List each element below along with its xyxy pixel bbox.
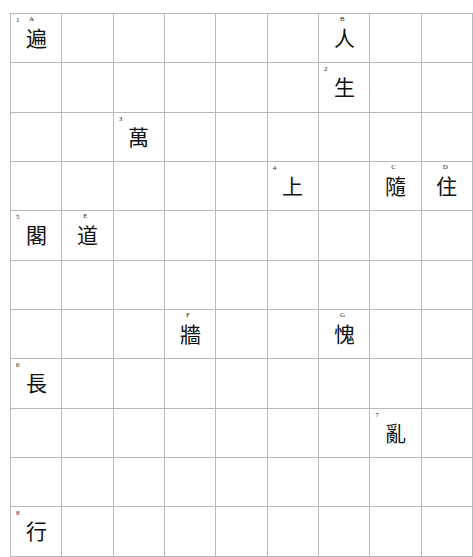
crossword-open-cell[interactable] [318,161,369,210]
crossword-open-cell[interactable] [318,457,369,506]
crossword-open-cell[interactable] [62,457,113,506]
crossword-open-cell[interactable]: 5閣 [11,211,62,260]
crossword-block-cell [11,408,62,457]
crossword-row: 5閣E道 [11,211,473,260]
crossword-open-cell[interactable]: E道 [62,211,113,260]
crossword-open-cell[interactable] [421,309,472,358]
crossword-open-cell[interactable]: B人 [318,14,369,63]
crossword-open-cell[interactable] [318,408,369,457]
crossword-open-cell[interactable]: 4上 [267,161,318,210]
crossword-block-cell [267,260,318,309]
crossword-block-cell [62,112,113,161]
crossword-open-cell[interactable] [318,359,369,408]
crossword-row: 2生 [11,63,473,112]
crossword-open-cell[interactable] [62,309,113,358]
crossword-row: 6長 [11,359,473,408]
crossword-open-cell[interactable] [216,507,267,556]
crossword-open-cell[interactable] [216,14,267,63]
crossword-open-cell[interactable] [216,112,267,161]
crossword-block-cell [62,161,113,210]
crossword-open-cell[interactable] [113,507,164,556]
crossword-open-cell[interactable] [421,457,472,506]
crossword-open-cell[interactable] [113,211,164,260]
crossword-open-cell[interactable] [421,359,472,408]
crossword-body: 1A遍B人2生3萬4上C隨D住5閣E道F牆G愧6長7亂8行 [11,14,473,557]
answer-character: 住 [422,175,472,199]
crossword-block-cell [113,63,164,112]
crossword-block-cell [421,14,472,63]
crossword-open-cell[interactable] [216,359,267,408]
crossword-block-cell [318,211,369,260]
crossword-block-cell [370,507,421,556]
crossword-block-cell [216,161,267,210]
crossword-block-cell [370,309,421,358]
crossword-block-cell [370,359,421,408]
crossword-open-cell[interactable] [267,14,318,63]
crossword-row: 4上C隨D住 [11,161,473,210]
answer-character: 閣 [11,224,61,248]
crossword-open-cell[interactable] [421,408,472,457]
crossword-open-cell[interactable]: 1A遍 [11,14,62,63]
answer-character: 生 [319,76,369,100]
crossword-open-cell[interactable] [11,112,62,161]
crossword-open-cell[interactable] [62,359,113,408]
crossword-puzzle: 1A遍B人2生3萬4上C隨D住5閣E道F牆G愧6長7亂8行 [10,13,463,448]
crossword-open-cell[interactable] [370,211,421,260]
crossword-open-cell[interactable] [11,161,62,210]
crossword-open-cell[interactable] [164,14,215,63]
crossword-block-cell [164,457,215,506]
clue-letter: B [340,16,345,23]
crossword-open-cell[interactable] [62,507,113,556]
crossword-open-cell[interactable] [11,63,62,112]
answer-character: 行 [11,520,61,544]
crossword-open-cell[interactable] [267,112,318,161]
crossword-open-cell[interactable]: F牆 [164,309,215,358]
crossword-row: 8行 [11,507,473,556]
crossword-block-cell [113,161,164,210]
crossword-block-cell [370,457,421,506]
crossword-open-cell[interactable] [318,112,369,161]
crossword-open-cell[interactable] [267,211,318,260]
clue-number: 5 [16,214,20,221]
crossword-block-cell [370,112,421,161]
crossword-block-cell [267,507,318,556]
crossword-open-cell[interactable] [370,63,421,112]
answer-character: 道 [62,224,112,248]
crossword-open-cell[interactable] [164,112,215,161]
crossword-block-cell [113,309,164,358]
crossword-block-cell [267,457,318,506]
crossword-open-cell[interactable]: C隨 [370,161,421,210]
crossword-open-cell[interactable] [164,408,215,457]
crossword-open-cell[interactable] [370,260,421,309]
crossword-block-cell [421,260,472,309]
answer-character: 愧 [319,323,369,347]
crossword-open-cell[interactable] [62,14,113,63]
crossword-open-cell[interactable] [164,359,215,408]
crossword-block-cell [318,260,369,309]
crossword-open-cell[interactable] [62,408,113,457]
crossword-open-cell[interactable] [164,507,215,556]
crossword-open-cell[interactable]: D住 [421,161,472,210]
crossword-open-cell[interactable] [164,211,215,260]
crossword-open-cell[interactable] [216,211,267,260]
crossword-open-cell[interactable]: 3萬 [113,112,164,161]
crossword-row: 1A遍B人 [11,14,473,63]
crossword-open-cell[interactable]: 6長 [11,359,62,408]
crossword-open-cell[interactable] [62,260,113,309]
crossword-open-cell[interactable]: G愧 [318,309,369,358]
crossword-open-cell[interactable]: 2生 [318,63,369,112]
answer-character: 隨 [370,175,420,199]
crossword-open-cell[interactable]: 8行 [11,507,62,556]
clue-letter: C [391,164,396,171]
crossword-block-cell [164,260,215,309]
crossword-open-cell[interactable]: 7亂 [370,408,421,457]
answer-character: 人 [319,27,369,51]
crossword-open-cell[interactable] [113,359,164,408]
crossword-open-cell[interactable] [421,63,472,112]
crossword-block-cell [216,260,267,309]
answer-character: 上 [268,175,318,199]
crossword-open-cell[interactable] [113,14,164,63]
crossword-block-cell [267,309,318,358]
clue-number: 3 [119,116,123,123]
crossword-grid: 1A遍B人2生3萬4上C隨D住5閣E道F牆G愧6長7亂8行 [10,13,473,557]
